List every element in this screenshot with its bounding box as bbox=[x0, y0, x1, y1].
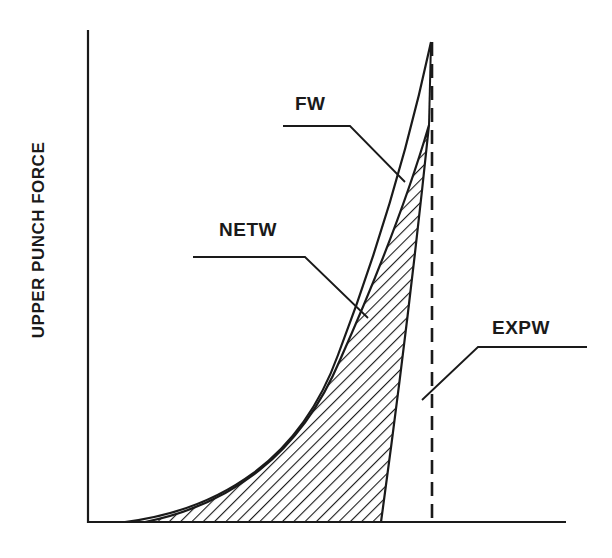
expw-leader-line bbox=[422, 347, 587, 400]
force-work-diagram: UPPER PUNCH FORCE FW NETW EXPW bbox=[0, 0, 612, 558]
netw-leader-line bbox=[193, 257, 368, 318]
expw-label: EXPW bbox=[492, 317, 550, 338]
y-axis-label: UPPER PUNCH FORCE bbox=[29, 142, 48, 338]
netw-label: NETW bbox=[219, 219, 277, 240]
netw-hatched-area bbox=[145, 125, 429, 522]
fw-leader-line bbox=[283, 126, 405, 182]
fw-label: FW bbox=[295, 93, 326, 114]
